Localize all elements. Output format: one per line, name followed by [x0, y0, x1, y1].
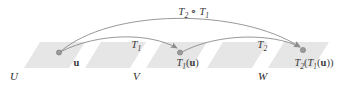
- space-label-v: V: [133, 70, 141, 82]
- composition-operator: ∘: [190, 5, 197, 17]
- composition-diagram: T2∘T1 T1 T2 u T1(u) T2(T1(u)) U V W: [0, 0, 348, 85]
- space-label-u: U: [10, 70, 19, 82]
- composition-label: T2∘T1: [159, 5, 223, 20]
- composition-sub-outer: 2: [184, 11, 188, 20]
- point-u-vector: u: [73, 57, 79, 68]
- composition-sub-inner: 1: [205, 11, 209, 20]
- point-t1u-dot: [177, 50, 182, 55]
- t2t1u-close-paren-outer: ): [330, 57, 334, 69]
- point-u-dot: [56, 50, 61, 55]
- t2-sub: 2: [263, 44, 267, 53]
- point-t2t1u-dot: [300, 47, 305, 52]
- t1u-close-paren: ): [195, 57, 199, 69]
- point-t2t1u-label: T2(T1(u)): [276, 57, 347, 71]
- diagram-canvas: T2∘T1 T1 T2 u T1(u) T2(T1(u)) U V W: [0, 0, 348, 85]
- space-label-w: W: [258, 70, 268, 82]
- point-u-label: u: [55, 57, 92, 68]
- t1-sub: 1: [137, 44, 141, 53]
